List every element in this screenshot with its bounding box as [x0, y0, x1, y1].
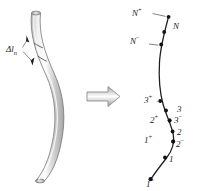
node-dot-2-plus — [168, 119, 172, 123]
node-label-2-plus-sup: + — [155, 113, 159, 120]
node-label-1-minus: 1− — [146, 180, 154, 189]
figure-root: Δln N+ — [0, 0, 211, 191]
node-label-3-minus: 3− — [174, 116, 182, 125]
leader-N-minus — [149, 44, 158, 45]
node-dot-3 — [164, 109, 168, 113]
node-label-N-plus: N+ — [132, 9, 142, 18]
leader-N-plus — [153, 14, 166, 17]
node-label-2-minus: 2− — [176, 140, 184, 149]
node-label-N-text: N — [173, 21, 179, 31]
node-label-2-text: 2 — [177, 127, 182, 137]
node-dot-3-plus — [158, 99, 162, 103]
node-dot-N-plus — [167, 15, 171, 19]
node-label-leaders — [149, 14, 166, 102]
node-label-N-minus-sup: − — [136, 34, 140, 41]
node-label-2: 2 — [177, 128, 182, 137]
node-label-1-plus: 1+ — [144, 136, 152, 145]
node-label-1: 1 — [169, 155, 174, 164]
node-label-N-minus: N− — [130, 37, 140, 46]
node-dot-1-plus — [171, 140, 175, 144]
node-label-1-minus-sup: − — [151, 177, 155, 184]
node-label-1-text: 1 — [169, 154, 174, 164]
node-label-2-minus-sup: − — [181, 137, 185, 144]
node-dot-N — [162, 30, 166, 34]
node-label-1-plus-sup: + — [149, 133, 153, 140]
node-label-3-minus-sup: − — [179, 113, 183, 120]
right-panel-discretized-graphic — [0, 0, 211, 191]
node-label-3-plus: 3+ — [144, 96, 152, 105]
node-dot-2 — [171, 130, 175, 134]
node-label-3-plus-sup: + — [149, 93, 153, 100]
node-label-2-plus: 2+ — [150, 116, 158, 125]
node-dot-1 — [163, 156, 167, 160]
node-label-N-plus-sup: + — [138, 6, 142, 13]
node-dot-N-minus — [159, 43, 163, 47]
node-label-N: N — [173, 22, 179, 31]
